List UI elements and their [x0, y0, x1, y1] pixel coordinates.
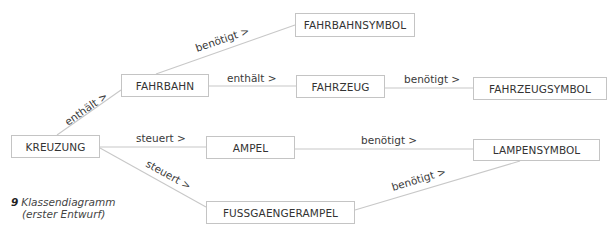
class-box-fahrzeugsymbol[interactable]: FAHRZEUGSYMBOL — [473, 77, 607, 100]
edge-label-fahrbahn-fahrzeug: enthält > — [227, 72, 277, 84]
edge-label-fussgaengerampel-lampensymbol: benötigt > — [390, 165, 447, 193]
figure-number: 9 — [11, 196, 18, 208]
figure-subtitle: (erster Entwurf) — [11, 208, 116, 220]
edge-label-kreuzung-fahrbahn: enthält > — [62, 89, 109, 127]
edge-label-kreuzung-ampel: steuert > — [136, 132, 186, 144]
edge-label-fahrbahn-fahrbahnsymbol: benötigt > — [194, 24, 251, 54]
class-box-fahrbahnsymbol[interactable]: FAHRBAHNSYMBOL — [295, 13, 415, 37]
edge-label-ampel-lampensymbol: benötigt > — [361, 134, 417, 146]
class-box-fahrzeug[interactable]: FAHRZEUG — [296, 75, 385, 98]
figure-caption: 9Klassendiagramm (erster Entwurf) — [11, 196, 116, 220]
class-box-lampensymbol[interactable]: LAMPENSYMBOL — [473, 139, 600, 161]
class-box-kreuzung[interactable]: KREUZUNG — [11, 135, 100, 158]
class-box-fussgaengerampel[interactable]: FUSSGAENGERAMPEL — [206, 201, 355, 224]
edge-kreuzung-fussgaengerampel — [100, 148, 206, 207]
figure-title: Klassendiagramm — [21, 196, 115, 208]
edge-label-fahrzeug-fahrzeugsymbol: benötigt > — [404, 73, 460, 85]
class-box-fahrbahn[interactable]: FAHRBAHN — [121, 74, 209, 97]
class-box-ampel[interactable]: AMPEL — [206, 136, 295, 159]
